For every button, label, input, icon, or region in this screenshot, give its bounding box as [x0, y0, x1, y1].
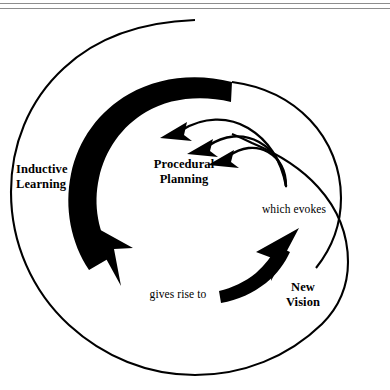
- label-procedural-planning: Procedural Planning: [132, 157, 236, 187]
- label-which-evokes: which evokes: [245, 203, 343, 217]
- label-gives-rise-to: gives rise to: [131, 288, 225, 302]
- diagram-canvas: Inductive Learning Procedural Planning w…: [0, 0, 390, 390]
- label-new-vision: New Vision: [272, 280, 334, 310]
- label-inductive-learning: Inductive Learning: [16, 162, 112, 192]
- diagram-graphics: [0, 0, 390, 390]
- outer-thin-spiral-arc: [11, 20, 348, 375]
